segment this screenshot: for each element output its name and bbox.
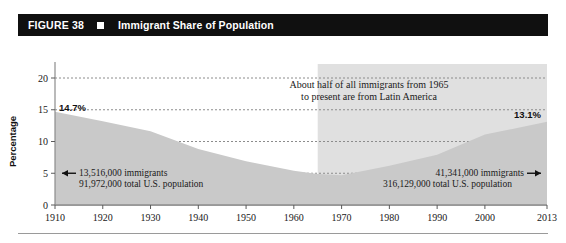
xtick-label-2000: 2000 xyxy=(475,212,495,223)
callout-line-2: to present are from Latin America xyxy=(301,91,437,102)
xtick-label-1980: 1980 xyxy=(379,212,399,223)
callout-line-1: About half of all immigrants from 1965 xyxy=(290,79,449,90)
figure-title-bar: FIGURE 38 Immigrant Share of Population xyxy=(18,14,548,36)
xtick-label-2013: 2013 xyxy=(537,212,557,223)
figure-bottom-rule xyxy=(18,233,548,234)
ytick-label-10: 10 xyxy=(38,136,48,147)
figure-container: FIGURE 38 Immigrant Share of Population … xyxy=(0,0,566,243)
ytick-label-20: 20 xyxy=(38,73,48,84)
xtick-label-1960: 1960 xyxy=(284,212,304,223)
figure-number-label: FIGURE 38 xyxy=(28,19,84,31)
left-annotation-line-1: 13,516,000 immigrants xyxy=(79,168,168,178)
page-title: Immigrant Share of Population xyxy=(118,19,274,31)
ytick-label-5: 5 xyxy=(43,168,48,179)
xtick-label-1920: 1920 xyxy=(93,212,113,223)
xtick-label-1970: 1970 xyxy=(332,212,352,223)
square-marker-icon xyxy=(97,22,104,29)
xtick-label-1990: 1990 xyxy=(427,212,447,223)
right-annotation-line-1: 41,341,000 immigrants xyxy=(436,168,525,178)
xtick-label-1950: 1950 xyxy=(236,212,256,223)
xtick-label-1910: 1910 xyxy=(45,212,65,223)
data-label-end: 13.1% xyxy=(514,109,541,120)
right-annotation-line-2: 316,129,000 total U.S. population xyxy=(383,179,512,189)
immigrant-share-area-chart: 05101520Percentage1910192019301940195019… xyxy=(0,36,566,236)
ytick-label-0: 0 xyxy=(43,200,48,211)
xtick-label-1940: 1940 xyxy=(188,212,208,223)
y-axis-title: Percentage xyxy=(7,116,18,167)
xtick-label-1930: 1930 xyxy=(141,212,161,223)
left-annotation-line-2: 91,972,000 total U.S. population xyxy=(79,179,204,189)
ytick-label-15: 15 xyxy=(38,104,48,115)
chart-area: 05101520Percentage1910192019301940195019… xyxy=(0,36,566,236)
data-label-start: 14.7% xyxy=(59,102,86,113)
